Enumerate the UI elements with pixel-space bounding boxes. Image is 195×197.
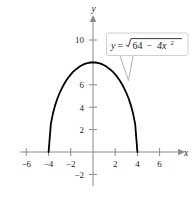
plot-canvas: −6 −4 −2 2 4 6 −2 2 4 6 10 x y y	[0, 0, 195, 197]
equation-radicand-b: 4x	[157, 40, 167, 51]
equation-exponent: 2	[171, 39, 174, 46]
y-tick-label-6: 6	[80, 80, 85, 90]
x-tick-label-minus2: −2	[66, 159, 76, 169]
equation-callout: y = 64 − 4x 2	[107, 33, 189, 56]
x-tick-label-4: 4	[135, 159, 140, 169]
y-tick-labels: −2 2 4 6 10	[74, 35, 84, 180]
y-axis-label: y	[90, 4, 96, 14]
x-tick-labels: −6 −4 −2 2 4 6	[21, 159, 162, 169]
leader-line-right	[129, 56, 134, 81]
x-tick-label-minus6: −6	[21, 159, 31, 169]
x-tick-label-6: 6	[157, 159, 162, 169]
y-tick-label-2: 2	[80, 125, 85, 135]
equation-minus: −	[147, 40, 153, 51]
y-tick-label-10: 10	[75, 35, 85, 45]
equation-equals: =	[118, 40, 124, 51]
leader-line-left	[120, 56, 129, 81]
callout-leader	[120, 56, 133, 81]
x-tick-label-2: 2	[113, 159, 118, 169]
x-axis-label: x	[183, 148, 189, 158]
x-tick-label-minus4: −4	[44, 159, 54, 169]
y-axis-arrow	[90, 15, 96, 22]
y-tick-label-minus2: −2	[74, 170, 84, 180]
equation-radicand-a: 64	[133, 40, 143, 51]
y-tick-label-4: 4	[80, 103, 85, 113]
equation-lhs: y	[110, 40, 116, 51]
graph-figure: −6 −4 −2 2 4 6 −2 2 4 6 10 x y y	[0, 0, 195, 197]
